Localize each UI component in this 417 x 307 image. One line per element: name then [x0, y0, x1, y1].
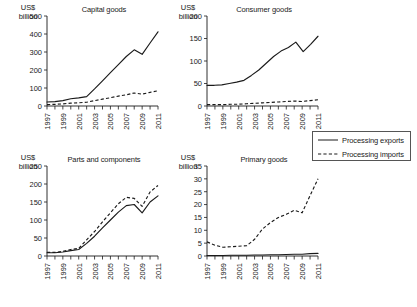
svg-text:1999: 1999: [59, 113, 68, 130]
svg-text:0: 0: [198, 252, 202, 261]
svg-text:2005: 2005: [266, 113, 275, 130]
svg-text:1997: 1997: [43, 263, 52, 280]
svg-text:200: 200: [29, 66, 42, 75]
svg-text:2009: 2009: [138, 113, 147, 130]
svg-text:50: 50: [194, 79, 202, 88]
svg-text:50: 50: [34, 234, 42, 243]
svg-text:0: 0: [38, 102, 42, 111]
panel-primary-goods: US$ billion Primary goods 05101520253035…: [166, 152, 326, 302]
legend-label-processing-exports: Processing exports: [342, 136, 404, 145]
plot-capital-goods: 0100200300400500199719992001200320052007…: [6, 2, 166, 152]
svg-text:0: 0: [198, 102, 202, 111]
svg-text:2011: 2011: [314, 113, 323, 129]
svg-text:1999: 1999: [219, 263, 228, 280]
svg-text:0: 0: [38, 252, 42, 261]
svg-text:2001: 2001: [235, 263, 244, 280]
legend-swatch-solid-line: [318, 135, 338, 145]
panel-consumer-goods: US$ billion Consumer goods 0501001502001…: [166, 2, 326, 152]
svg-text:2001: 2001: [75, 263, 84, 280]
svg-text:10: 10: [194, 226, 202, 235]
svg-text:2003: 2003: [91, 263, 100, 280]
svg-text:25: 25: [194, 188, 202, 197]
figure-container: US$ billion Capital goods 01002003004005…: [0, 0, 417, 307]
svg-text:100: 100: [29, 84, 42, 93]
svg-text:1999: 1999: [59, 263, 68, 280]
svg-text:2003: 2003: [91, 113, 100, 130]
legend-label-processing-imports: Processing imports: [342, 150, 404, 159]
svg-text:2005: 2005: [106, 113, 115, 130]
legend-swatch-dashed-line: [318, 149, 338, 159]
plot-primary-goods: 0510152025303519971999200120032005200720…: [166, 152, 326, 302]
svg-text:500: 500: [29, 12, 42, 21]
svg-text:2003: 2003: [251, 263, 260, 280]
svg-text:150: 150: [189, 34, 202, 43]
panel-capital-goods: US$ billion Capital goods 01002003004005…: [6, 2, 166, 152]
svg-text:2011: 2011: [154, 263, 163, 279]
svg-text:5: 5: [198, 239, 202, 248]
chart-legend: Processing exports Processing imports: [312, 131, 411, 161]
svg-text:15: 15: [194, 213, 202, 222]
svg-text:100: 100: [29, 216, 42, 225]
svg-text:200: 200: [189, 12, 202, 21]
svg-text:2001: 2001: [75, 113, 84, 130]
legend-item-processing-exports: Processing exports: [313, 133, 410, 147]
svg-text:2005: 2005: [266, 263, 275, 280]
svg-text:35: 35: [194, 162, 202, 171]
svg-text:250: 250: [29, 162, 42, 171]
svg-text:150: 150: [29, 198, 42, 207]
svg-text:2007: 2007: [282, 263, 291, 280]
svg-text:2005: 2005: [106, 263, 115, 280]
plot-consumer-goods: 0501001502001997199920012003200520072009…: [166, 2, 326, 152]
svg-text:2009: 2009: [298, 113, 307, 130]
plot-parts-and-components: 0501001502002501997199920012003200520072…: [6, 152, 166, 302]
svg-text:30: 30: [194, 175, 202, 184]
svg-text:2007: 2007: [122, 113, 131, 130]
svg-text:400: 400: [29, 30, 42, 39]
svg-text:100: 100: [189, 57, 202, 66]
svg-text:1999: 1999: [219, 113, 228, 130]
svg-text:1997: 1997: [203, 263, 212, 280]
legend-item-processing-imports: Processing imports: [313, 147, 410, 161]
svg-text:1997: 1997: [203, 113, 212, 130]
svg-text:2001: 2001: [235, 113, 244, 130]
svg-text:2003: 2003: [251, 113, 260, 130]
svg-text:2009: 2009: [138, 263, 147, 280]
svg-text:2007: 2007: [122, 263, 131, 280]
svg-text:2009: 2009: [298, 263, 307, 280]
svg-text:2007: 2007: [282, 113, 291, 130]
panel-parts-and-components: US$ billion Parts and components 0501001…: [6, 152, 166, 302]
svg-text:300: 300: [29, 48, 42, 57]
svg-text:2011: 2011: [154, 113, 163, 129]
svg-text:2011: 2011: [314, 263, 323, 279]
svg-text:1997: 1997: [43, 113, 52, 130]
svg-text:20: 20: [194, 200, 202, 209]
svg-text:200: 200: [29, 180, 42, 189]
